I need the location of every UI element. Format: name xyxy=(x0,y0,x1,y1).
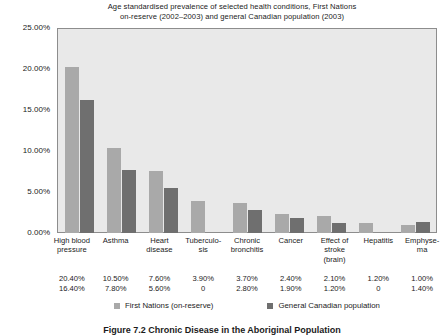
bar-group xyxy=(352,29,394,233)
data-value-cell: 5.60% xyxy=(138,284,182,294)
series-0-value-row: 20.40%10.50%7.60%3.90%3.70%2.40%2.10%1.2… xyxy=(50,274,444,284)
data-value-cell: 2.80% xyxy=(225,284,269,294)
data-value-cell: 10.50% xyxy=(94,274,138,284)
data-value-cell: 2.10% xyxy=(313,274,357,284)
bar-group xyxy=(58,29,100,233)
data-value-cell: 2.40% xyxy=(269,274,313,284)
data-value-cell: 1.20% xyxy=(356,274,400,284)
bar-groups xyxy=(58,29,436,233)
data-value-cell: 7.80% xyxy=(94,284,138,294)
bar-series-1 xyxy=(164,188,178,233)
bar-group xyxy=(268,29,310,233)
data-value-cell: 3.70% xyxy=(225,274,269,284)
bar-series-1 xyxy=(332,223,346,233)
bar-group xyxy=(394,29,436,233)
data-value-cell: 1.40% xyxy=(400,284,444,294)
bar-series-1 xyxy=(80,100,94,233)
bar-series-1 xyxy=(290,218,304,233)
data-value-cell: 1.90% xyxy=(269,284,313,294)
category-label: High blood pressure xyxy=(50,236,94,274)
data-value-cell: 0 xyxy=(181,284,225,294)
y-axis-tick-label: 15.00% xyxy=(23,106,50,114)
y-axis-tick-label: 5.00% xyxy=(27,188,50,196)
bar-series-0 xyxy=(107,148,121,233)
data-value-cell: 20.40% xyxy=(50,274,94,284)
data-value-cell: 3.90% xyxy=(181,274,225,284)
bar-group xyxy=(226,29,268,233)
category-label: Heart disease xyxy=(138,236,182,274)
bar-series-0 xyxy=(65,67,79,233)
chart-legend: First Nations (on-reserve) General Canad… xyxy=(50,302,444,310)
category-label: Effect of stroke (brain) xyxy=(313,236,357,274)
legend-label-first-nations: First Nations (on-reserve) xyxy=(125,302,213,310)
bar-group xyxy=(100,29,142,233)
legend-swatch-icon-first-nations xyxy=(114,303,120,309)
category-label: Chronic bronchitis xyxy=(225,236,269,274)
axis-data-table: High blood pressureAsthmaHeart diseaseTu… xyxy=(50,236,444,294)
bar-series-0 xyxy=(191,201,205,233)
legend-label-general-canadian: General Canadian population xyxy=(278,302,379,310)
bar-series-1 xyxy=(122,170,136,233)
data-value-cell: 1.00% xyxy=(400,274,444,284)
figure-caption: Figure 7.2 Chronic Disease in the Aborig… xyxy=(0,325,444,336)
data-value-cell: 16.40% xyxy=(50,284,94,294)
bar-series-0 xyxy=(275,214,289,233)
legend-item-general-canadian: General Canadian population xyxy=(267,302,379,310)
bar-series-0 xyxy=(233,203,247,233)
y-axis-tick-label: 25.00% xyxy=(23,24,50,32)
bar-group xyxy=(142,29,184,233)
data-value-cell: 1.20% xyxy=(313,284,357,294)
category-label-row: High blood pressureAsthmaHeart diseaseTu… xyxy=(50,236,444,274)
bar-series-0 xyxy=(317,216,331,233)
y-axis-tick-label: 10.00% xyxy=(23,147,50,155)
category-label: Hepatitis xyxy=(356,236,400,274)
chart-title-line-1: Age standardised prevalence of selected … xyxy=(108,2,357,11)
data-value-cell: 7.60% xyxy=(138,274,182,284)
category-label: Asthma xyxy=(94,236,138,274)
category-label: Cancer xyxy=(269,236,313,274)
category-label: Emphyse-ma xyxy=(400,236,444,274)
data-value-cell: 0 xyxy=(356,284,400,294)
chart-title: Age standardised prevalence of selected … xyxy=(72,2,392,21)
series-1-value-row: 16.40%7.80%5.60%02.80%1.90%1.20%01.40% xyxy=(50,284,444,294)
bar-group xyxy=(310,29,352,233)
y-axis: 0.00%5.00%10.00%15.00%20.00%25.00% xyxy=(0,28,54,234)
category-label: Tuberculo-sis xyxy=(181,236,225,274)
bar-series-1 xyxy=(248,210,262,233)
y-axis-tick-label: 20.00% xyxy=(23,65,50,73)
bar-series-0 xyxy=(149,171,163,233)
legend-swatch-icon-general-canadian xyxy=(267,303,273,309)
bar-group xyxy=(184,29,226,233)
bar-series-0 xyxy=(359,223,373,233)
y-axis-tick-label: 0.00% xyxy=(27,229,50,237)
bar-series-1 xyxy=(416,222,430,233)
chart-title-line-2: on-reserve (2002–2003) and general Canad… xyxy=(120,12,344,21)
legend-item-first-nations: First Nations (on-reserve) xyxy=(114,302,213,310)
bar-series-0 xyxy=(401,225,415,233)
